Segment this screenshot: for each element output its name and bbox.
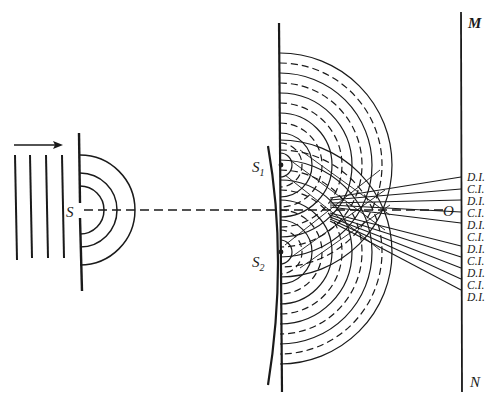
fringe-label: C.I. [467,255,484,267]
screen-top-label: M [467,15,482,31]
second-barrier [279,23,282,392]
interference-diagram: S S1 S2 [0,0,503,400]
incident-wavefronts [15,155,64,260]
fringe-labels: D.I. C.I. D.I. C.I. D.I. C.I. D.I. C.I. … [466,171,485,303]
fringe-label: D.I. [466,219,485,231]
fringe-label: D.I. [466,195,485,207]
fringe-label: C.I. [467,231,484,243]
fringe-label: D.I. [466,291,485,303]
fringe-label: D.I. [466,171,485,183]
fringe-label: C.I. [467,279,484,291]
slit2-label: S2 [252,254,265,273]
fringe-label: D.I. [466,243,485,255]
screen-bottom-label: N [469,374,481,390]
screen [461,12,462,392]
source-label: S [66,204,74,220]
slit1-point [279,163,284,168]
slit1-label: S1 [252,159,265,178]
propagation-arrow-icon [14,141,63,149]
fringe-label: D.I. [466,267,485,279]
first-barrier [79,133,82,291]
slit2-point [279,250,284,255]
arriving-wavefront [268,146,278,385]
fringe-label: C.I. [467,183,484,195]
center-point-label: O [443,203,454,219]
fringe-label: C.I. [467,207,484,219]
